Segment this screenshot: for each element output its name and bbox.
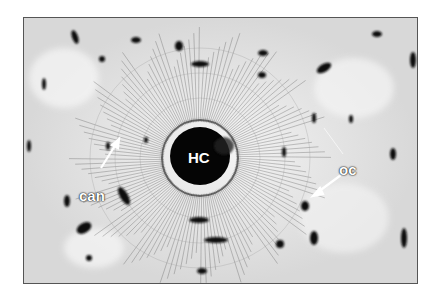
micrograph-image — [24, 18, 417, 283]
micrograph-frame: HC can oc — [23, 17, 418, 284]
label-osteocyte: oc — [339, 161, 357, 178]
label-canaliculi: can — [79, 187, 105, 204]
label-haversian-canal: HC — [188, 149, 210, 166]
